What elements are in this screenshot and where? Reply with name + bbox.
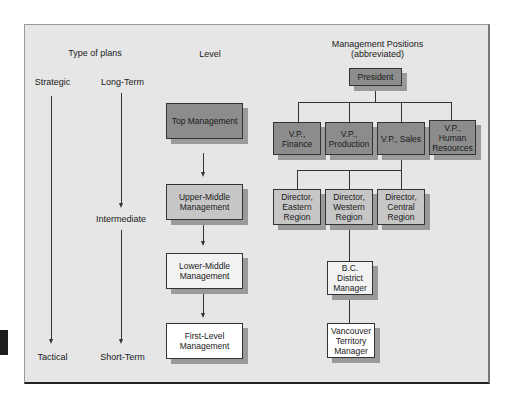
position-vp-sales: V.P., Sales <box>377 122 425 155</box>
position-director-western: Director, Western Region <box>325 189 373 225</box>
plan-strategic: Strategic <box>30 77 75 87</box>
plan-short-term: Short-Term <box>95 352 150 362</box>
level-first-level-management: First-Level Management <box>166 323 243 359</box>
arrow-down-icon <box>119 339 123 344</box>
position-director-central: Director, Central Region <box>377 189 425 225</box>
level-upper-middle-management: Upper-Middle Management <box>166 184 243 220</box>
arrow-down-icon <box>49 339 53 344</box>
vp-connector <box>298 102 451 103</box>
arrow-down-icon <box>201 313 205 318</box>
position-president: President <box>349 68 402 86</box>
position-vp-finance: V.P., Finance <box>273 122 321 155</box>
position-vp-human-resources: V.P., Human Resources <box>429 120 476 155</box>
position-vp-production: V.P., Production <box>325 122 373 155</box>
arrow-down-icon <box>119 203 123 208</box>
longterm-intermediate-line <box>121 93 122 203</box>
position-bc-district-manager: B.C. District Manager <box>327 261 373 295</box>
arrow-down-icon <box>201 172 205 177</box>
plan-tactical: Tactical <box>30 352 75 362</box>
level-lower-middle-management: Lower-Middle Management <box>166 253 243 289</box>
header-management-positions: Management Positions (abbreviated) <box>330 39 425 59</box>
position-vancouver-territory-manager: Vancouver Territory Manager <box>327 323 375 358</box>
plan-long-term: Long-Term <box>95 77 150 87</box>
position-director-eastern: Director, Eastern Region <box>273 189 321 225</box>
intermediate-shortterm-line <box>121 230 122 340</box>
edge-marker <box>0 330 8 355</box>
plan-intermediate: Intermediate <box>90 214 152 224</box>
header-type-of-plans: Type of plans <box>50 48 140 58</box>
header-level: Level <box>175 49 245 59</box>
level-top-management: Top Management <box>166 103 243 139</box>
strategic-tactical-line <box>51 96 52 341</box>
arrow-down-icon <box>201 241 205 246</box>
